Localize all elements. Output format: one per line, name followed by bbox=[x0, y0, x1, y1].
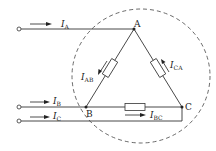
label-ic: IC bbox=[52, 111, 62, 122]
terminal-a[interactable] bbox=[17, 27, 21, 31]
arrow-ib-icon bbox=[30, 100, 50, 104]
node-label-a: A bbox=[133, 19, 141, 29]
arrow-ia-icon bbox=[30, 22, 52, 26]
resistor-ab[interactable] bbox=[102, 59, 117, 78]
label-ia: IA bbox=[60, 19, 70, 30]
delta-circuit-diagram: IA IB IC IAB IBC ICA A B C bbox=[0, 0, 216, 151]
node-c-dot bbox=[181, 106, 184, 109]
node-label-c: C bbox=[185, 102, 192, 112]
terminal-c[interactable] bbox=[17, 119, 21, 123]
node-label-b: B bbox=[86, 109, 93, 119]
terminal-b[interactable] bbox=[17, 105, 21, 109]
label-ib: IB bbox=[52, 96, 62, 107]
arrow-ic-icon bbox=[30, 115, 50, 119]
resistor-bc[interactable] bbox=[125, 104, 145, 111]
label-iab: IAB bbox=[80, 72, 94, 83]
label-ibc: IBC bbox=[149, 110, 163, 121]
arrow-ibc-icon bbox=[125, 113, 146, 117]
label-ica: ICA bbox=[169, 60, 183, 71]
